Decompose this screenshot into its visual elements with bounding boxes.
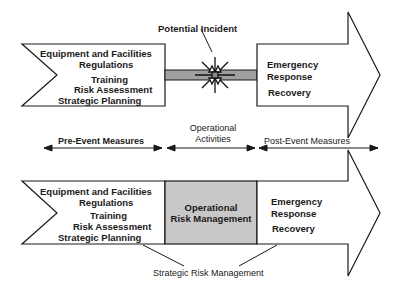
bottom-right-item: Recovery [272, 223, 315, 234]
diagram-canvas [0, 0, 399, 295]
top-left-item: Regulations [79, 59, 133, 70]
starburst-icon [195, 57, 235, 93]
operational-risk-line2: Risk Management [165, 213, 257, 224]
top-left-item: Risk Assessment [74, 84, 152, 95]
bottom-right-item: Response [271, 208, 316, 219]
strategic-callout-line-right [239, 245, 277, 266]
operational-risk-line1: Operational [165, 202, 257, 213]
top-left-item: Strategic Planning [58, 95, 141, 106]
pre-event-label: Pre-Event Measures [58, 136, 144, 147]
operational-label-line2: Activities [178, 134, 248, 145]
bottom-right-item: Emergency [271, 196, 322, 207]
bottom-left-item: Strategic Planning [58, 232, 141, 243]
bottom-left-item: Equipment and Facilities [40, 186, 152, 197]
strategic-risk-management-label: Strategic Risk Management [153, 268, 264, 279]
top-right-item: Emergency [267, 59, 318, 70]
top-right-item: Recovery [268, 87, 311, 98]
top-left-item: Equipment and Facilities [40, 48, 152, 59]
bottom-left-item: Regulations [79, 197, 133, 208]
strategic-callout-line-left [143, 245, 184, 266]
bottom-left-item: Training [90, 210, 127, 221]
bottom-left-item: Risk Assessment [73, 221, 151, 232]
top-right-item: Response [267, 71, 312, 82]
post-event-label: Post-Event Measures [264, 136, 350, 147]
operational-label-line1: Operational [178, 123, 248, 134]
potential-incident-label: Potential Incident [158, 23, 237, 34]
